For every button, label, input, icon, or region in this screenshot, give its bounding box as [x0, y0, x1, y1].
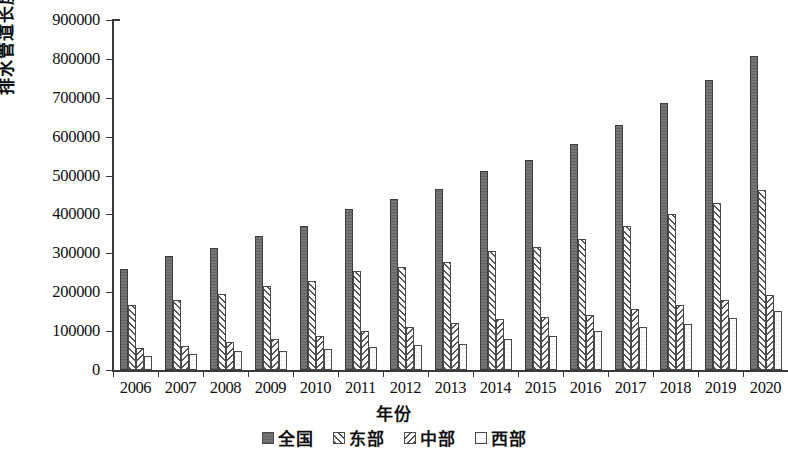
- bar-group: [113, 20, 158, 370]
- bar: [390, 199, 398, 370]
- y-tick-mark: [106, 20, 113, 21]
- bar: [705, 80, 713, 370]
- x-tick-mark: [653, 371, 654, 377]
- bar-group: [743, 20, 788, 370]
- x-tick-mark: [698, 371, 699, 377]
- x-tick-label: 2009: [248, 378, 293, 402]
- x-axis-tick-labels: 2006200720082009201020112012201320142015…: [113, 378, 788, 402]
- bar: [721, 300, 729, 370]
- bar: [623, 226, 631, 370]
- legend-item[interactable]: 全国: [262, 425, 313, 450]
- bar: [345, 209, 353, 370]
- bar-group: [428, 20, 473, 370]
- bar: [308, 281, 316, 370]
- x-tick-label: 2010: [293, 378, 338, 402]
- x-axis-title: 年份: [0, 400, 788, 425]
- legend-swatch-icon: [262, 432, 274, 444]
- bar-chart: 排水管道长度（km） 90000080000070000060000050000…: [0, 0, 788, 451]
- y-tick-mark: [106, 331, 113, 332]
- legend-swatch-icon: [404, 432, 416, 444]
- bar: [774, 311, 782, 370]
- bar: [451, 323, 459, 370]
- bar: [443, 262, 451, 370]
- x-tick-label: 2006: [113, 378, 158, 402]
- legend-swatch-icon: [333, 432, 345, 444]
- bar: [729, 318, 737, 370]
- x-tick-label: 2008: [203, 378, 248, 402]
- bar: [660, 103, 668, 370]
- bar: [120, 269, 128, 370]
- bar: [300, 226, 308, 370]
- bar: [541, 317, 549, 370]
- legend-label: 东部: [349, 425, 384, 450]
- x-tick-label: 2014: [473, 378, 518, 402]
- y-tick-mark: [106, 176, 113, 177]
- bar: [766, 295, 774, 370]
- x-tick-mark: [113, 371, 114, 377]
- bar: [263, 286, 271, 370]
- bar: [353, 271, 361, 370]
- bar-group: [518, 20, 563, 370]
- legend-item[interactable]: 东部: [333, 425, 384, 450]
- bar: [324, 349, 332, 370]
- bar: [459, 344, 467, 370]
- bar: [189, 354, 197, 370]
- y-tick-mark: [106, 59, 113, 60]
- bar-group: [293, 20, 338, 370]
- bar: [549, 336, 557, 370]
- bar: [234, 351, 242, 370]
- bar: [586, 315, 594, 370]
- bar: [504, 339, 512, 370]
- bar: [406, 327, 414, 370]
- x-tick-mark: [248, 371, 249, 377]
- bar-group: [473, 20, 518, 370]
- bar-group: [608, 20, 653, 370]
- bar: [361, 331, 369, 370]
- bar: [255, 236, 263, 370]
- bar: [570, 144, 578, 370]
- bar: [758, 190, 766, 370]
- legend-item[interactable]: 中部: [404, 425, 455, 450]
- bar-group: [653, 20, 698, 370]
- x-tick-label: 2012: [383, 378, 428, 402]
- bar-group: [203, 20, 248, 370]
- x-tick-mark: [563, 371, 564, 377]
- x-tick-mark: [518, 371, 519, 377]
- bar-group: [698, 20, 743, 370]
- legend-item[interactable]: 西部: [475, 425, 526, 450]
- chart-legend: 全国东部中部西部: [0, 425, 788, 450]
- x-tick-mark: [473, 371, 474, 377]
- bar: [316, 336, 324, 370]
- x-tick-label: 2018: [653, 378, 698, 402]
- y-tick-mark: [106, 214, 113, 215]
- legend-label: 西部: [491, 425, 526, 450]
- bar-group: [383, 20, 428, 370]
- x-axis-ticks: [113, 371, 788, 378]
- bar: [615, 125, 623, 370]
- bar: [181, 346, 189, 371]
- bar: [594, 331, 602, 370]
- x-tick-mark: [203, 371, 204, 377]
- x-tick-mark: [608, 371, 609, 377]
- bar: [414, 345, 422, 370]
- x-tick-label: 2015: [518, 378, 563, 402]
- y-tick-mark: [106, 253, 113, 254]
- bar: [398, 267, 406, 370]
- y-tick-mark: [106, 137, 113, 138]
- x-tick-mark: [743, 371, 744, 377]
- bar: [271, 339, 279, 370]
- bar: [480, 171, 488, 370]
- legend-swatch-icon: [475, 432, 487, 444]
- bar: [668, 214, 676, 370]
- bar-group: [248, 20, 293, 370]
- bar: [488, 251, 496, 370]
- bar: [144, 356, 152, 370]
- bar-group: [563, 20, 608, 370]
- y-tick-mark: [106, 370, 113, 371]
- bar: [173, 300, 181, 370]
- bar: [435, 189, 443, 370]
- bar: [533, 247, 541, 370]
- x-tick-label: 2007: [158, 378, 203, 402]
- x-tick-mark: [158, 371, 159, 377]
- legend-label: 中部: [420, 425, 455, 450]
